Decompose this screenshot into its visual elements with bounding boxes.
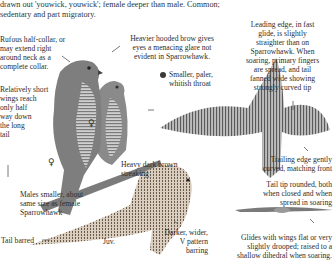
note-line: Relatively short — [0, 85, 48, 94]
note-line: complete collar. — [0, 62, 65, 71]
note-line: shallow dihedral when soaring. — [228, 251, 332, 260]
note-line: Males smaller, about — [20, 190, 83, 199]
note-line: Rufous half-collar, or — [0, 35, 65, 44]
collar-note: Rufous half-collar, or may extend right … — [0, 35, 65, 71]
trailing-edge-note: Trailing edge gently curved, matching fr… — [250, 155, 332, 173]
note-line: are spread, and tail — [232, 65, 333, 74]
note-line: barring — [160, 246, 208, 255]
note-line: evident in Sparrowhawk. — [118, 52, 226, 61]
brow-note: Heavier hooded brow gives eyes a menacin… — [118, 34, 226, 61]
note-line: may extend right — [0, 44, 65, 53]
note-line: V pattern — [160, 237, 208, 246]
v-pattern-note: Darker, wider, V pattern barring — [160, 228, 208, 255]
note-line: Tail tip rounded, both — [240, 180, 332, 189]
male-dot-icon — [160, 72, 166, 78]
note-line: whitish throat — [160, 79, 213, 88]
note-line: straighter than on — [232, 38, 333, 47]
note-line: Sparrowhawk. When — [232, 47, 333, 56]
leading-edge-note: Leading edge, in fast glide, is slightly… — [232, 20, 333, 92]
note-line: same size as female — [20, 199, 83, 208]
note-line: eyes a menacing glare not — [118, 43, 226, 52]
tail-barred-note: Tail barred — [1, 236, 34, 245]
note-line: glide, is slightly — [232, 29, 333, 38]
note-line: strongly curved tip — [232, 83, 333, 92]
note-line: Trailing edge gently — [250, 155, 332, 164]
throat-note: Smaller, paler, whitish throat — [160, 70, 213, 88]
note-line: Glides with wings flat or very — [228, 233, 332, 242]
note-line: when closed and when — [240, 189, 332, 198]
glides-note: Glides with wings flat or very slightly … — [228, 233, 332, 260]
note-line: soaring, primary fingers — [232, 56, 333, 65]
note-line: around neck as a — [0, 53, 65, 62]
note-line: fanned wide showing — [232, 74, 333, 83]
note-line: Leading edge, in fast — [232, 20, 333, 29]
note-line: spread in soaring — [240, 198, 332, 207]
note-line: Heavier hooded brow gives — [118, 34, 226, 43]
note-line: Sparrowhawk — [20, 208, 83, 217]
streaking-note: Heavy dark brown streaking — [121, 160, 178, 178]
female-symbol-icon: ♀ — [88, 118, 95, 128]
note-line: Darker, wider, — [160, 228, 208, 237]
males-note: Males smaller, about same size as female… — [20, 190, 83, 217]
note-line: slightly drooped; raised to a — [228, 242, 332, 251]
note-line: the long — [0, 121, 48, 130]
tail-tip-note: Tail tip rounded, both when closed and w… — [240, 180, 332, 207]
note-line: Smaller, paler, — [169, 70, 213, 79]
note-line: tail — [0, 130, 48, 139]
note-line: way down — [0, 112, 48, 121]
note-line: curved, matching front — [250, 164, 332, 173]
note-line: only half — [0, 103, 48, 112]
wings-short-note: Relatively short wings reach only half w… — [0, 85, 48, 139]
female-symbol-icon: ♀ — [48, 157, 55, 167]
note-line: wings reach — [0, 94, 48, 103]
juv-label: Juv. — [103, 237, 115, 246]
note-line: streaking — [121, 169, 178, 178]
note-line: Heavy dark brown — [121, 160, 178, 169]
